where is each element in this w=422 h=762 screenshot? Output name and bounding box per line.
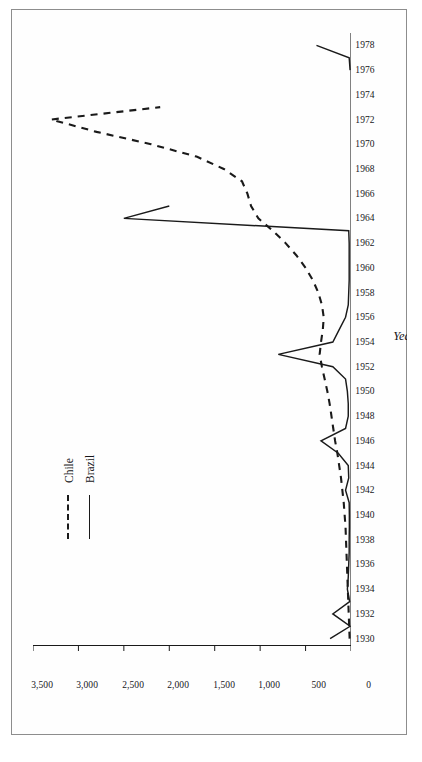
line-chart-svg xyxy=(33,33,351,651)
plot-area xyxy=(33,33,351,651)
legend-item-chile: Chile xyxy=(58,421,79,539)
x-axis-tick-label: 1954 xyxy=(345,337,385,347)
y-axis-tick-label: 0 xyxy=(327,680,371,690)
y-axis-tick-label: 3,000 xyxy=(54,680,98,690)
x-axis-tick-label: 1938 xyxy=(345,535,385,545)
x-axis-tick-label: 1930 xyxy=(345,634,385,644)
x-axis-tick-label: 1952 xyxy=(345,362,385,372)
y-axis-tick-label: 3,500 xyxy=(11,680,53,690)
x-axis-tick-label: 1972 xyxy=(345,115,385,125)
y-axis-tick-label: 1,500 xyxy=(191,680,235,690)
figure: 1930193219341936193819401942194419461948… xyxy=(11,9,407,735)
x-axis-tick-label: 1974 xyxy=(345,90,385,100)
x-axis-tick-label: 1978 xyxy=(345,40,385,50)
x-axis-tick-label: 1944 xyxy=(345,461,385,471)
rotated-figure-wrapper: 1930193219341936193819401942194419461948… xyxy=(11,9,407,735)
series-line-chile xyxy=(51,107,349,638)
x-axis-tick-label: 1940 xyxy=(345,510,385,520)
data-series-group xyxy=(51,45,350,638)
x-axis-tick-label: 1970 xyxy=(345,139,385,149)
x-axis-title: Year xyxy=(393,329,407,344)
x-axis-tick-label: 1946 xyxy=(345,436,385,446)
series-line-brazil xyxy=(124,206,350,639)
x-axis-tick-label: 1958 xyxy=(345,288,385,298)
legend-label-chile: Chile xyxy=(63,458,75,483)
x-axis-tick-label: 1960 xyxy=(345,263,385,273)
y-axis-tick-label: 2,500 xyxy=(100,680,144,690)
y-axis-tick-label: 2,000 xyxy=(145,680,189,690)
chart-legend: Chile Brazil xyxy=(58,421,100,539)
y-axis-tick-label: 1,000 xyxy=(236,680,280,690)
legend-item-brazil: Brazil xyxy=(79,421,100,539)
x-axis-tick-label: 1934 xyxy=(345,584,385,594)
legend-swatch-dashed-icon xyxy=(67,495,70,539)
x-axis-tick-label: 1968 xyxy=(345,164,385,174)
x-axis-tick-label: 1936 xyxy=(345,559,385,569)
x-axis-tick-label: 1942 xyxy=(345,485,385,495)
x-axis-tick-label: 1966 xyxy=(345,189,385,199)
scanned-page: 1930193219341936193819401942194419461948… xyxy=(0,0,422,762)
legend-label-brazil: Brazil xyxy=(84,455,96,483)
x-axis-tick-label: 1948 xyxy=(345,411,385,421)
x-axis-tick-label: 1976 xyxy=(345,65,385,75)
legend-swatch-solid-icon xyxy=(89,495,91,539)
x-axis-tick-label: 1962 xyxy=(345,238,385,248)
x-axis-tick-label: 1932 xyxy=(345,609,385,619)
x-axis-tick-label: 1956 xyxy=(345,312,385,322)
x-axis-tick-label: 1964 xyxy=(345,213,385,223)
y-axis-tick-label: 500 xyxy=(282,680,326,690)
axes-group xyxy=(33,33,351,651)
x-axis-tick-label: 1950 xyxy=(345,386,385,396)
